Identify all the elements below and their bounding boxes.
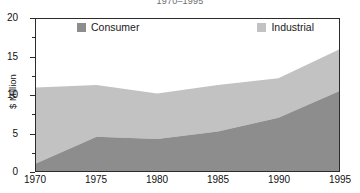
legend-swatch-industrial xyxy=(257,23,266,32)
legend-item-industrial[interactable]: Industrial xyxy=(257,21,314,33)
chart-title: 1970–1995 xyxy=(0,0,360,6)
x-tick-label: 1980 xyxy=(137,175,177,185)
y-tick-mark xyxy=(30,172,35,173)
legend-label-consumer: Consumer xyxy=(91,21,139,33)
y-tick-label: 20 xyxy=(0,13,18,23)
legend-item-consumer[interactable]: Consumer xyxy=(77,21,139,33)
y-tick-label: 10 xyxy=(0,90,18,100)
x-tick-label: 1995 xyxy=(320,175,360,185)
plot-area xyxy=(35,18,340,172)
x-tick-label: 1970 xyxy=(15,175,55,185)
y-tick-label: 5 xyxy=(0,129,18,139)
stacked-area-series xyxy=(36,19,339,171)
x-tick-label: 1975 xyxy=(76,175,116,185)
x-tick-label: 1985 xyxy=(198,175,238,185)
legend-label-industrial: Industrial xyxy=(271,21,314,33)
x-tick-label: 1990 xyxy=(259,175,299,185)
legend-swatch-consumer xyxy=(77,23,86,32)
area-chart-figure: 1970–1995 $ Million 05101520 19701975198… xyxy=(0,0,360,193)
y-tick-label: 15 xyxy=(0,52,18,62)
